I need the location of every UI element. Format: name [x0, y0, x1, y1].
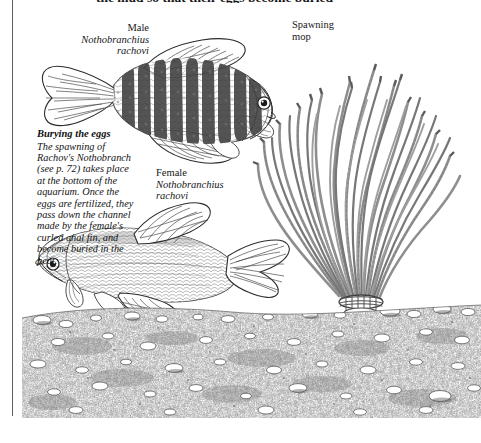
label-male-species: rachovi — [61, 45, 149, 57]
peat-substrate-art — [22, 301, 481, 418]
caption-block: Burying the eggs The spawning of Rachov'… — [37, 128, 134, 266]
label-male-genus: Nothobranchius — [61, 34, 149, 46]
label-female-species: rachovi — [156, 190, 252, 202]
label-spawning-mop-line1: Spawning — [292, 19, 362, 31]
label-spawning-mop-line2: mop — [292, 31, 362, 43]
label-spawning-mop: Spawning mop — [292, 19, 362, 42]
caption-body: The spawning of Rachov's Nothobranch (se… — [37, 141, 134, 266]
cut-off-running-text: the mud so that their eggs become buried — [96, 0, 426, 3]
illustration-page: the mud so that their eggs become buried — [0, 0, 481, 443]
label-male: Male Nothobranchius rachovi — [61, 22, 149, 57]
label-male-sex: Male — [61, 22, 149, 34]
label-female-sex: Female — [156, 167, 252, 179]
caption-title: Burying the eggs — [37, 128, 134, 140]
spawning-mop-art — [253, 64, 460, 318]
label-female-genus: Nothobranchius — [156, 179, 252, 191]
label-female: Female Nothobranchius rachovi — [156, 167, 252, 202]
column-rule — [12, 0, 13, 416]
